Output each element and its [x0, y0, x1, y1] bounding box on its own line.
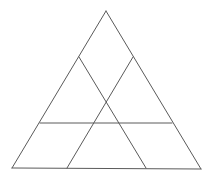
right-side-line [106, 11, 201, 169]
base-line [12, 168, 201, 169]
triangle-diagram [0, 0, 211, 181]
segment-group [12, 11, 201, 169]
left-side-line [12, 11, 106, 168]
inner-diagonal-1-line [79, 57, 146, 168]
inner-diagonal-2-line [67, 57, 133, 168]
